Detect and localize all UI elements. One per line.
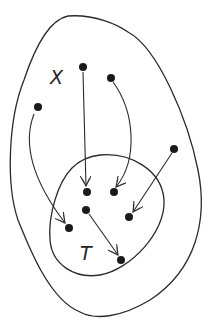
point-t6	[117, 256, 125, 264]
point-t2	[110, 188, 118, 196]
set-diagram: X T	[0, 0, 215, 327]
point-t3	[82, 206, 90, 214]
point-t5	[65, 224, 73, 232]
arrow-x2-to-t2	[113, 82, 131, 187]
point-x1	[79, 63, 87, 71]
arrow-x1-to-t1	[83, 72, 86, 186]
point-x3	[34, 103, 42, 111]
arrow-t3-to-t6	[89, 214, 118, 255]
label-t: T	[80, 242, 93, 264]
point-x4	[170, 145, 178, 153]
point-x2	[107, 74, 115, 82]
point-t1	[83, 188, 91, 196]
inner-set-boundary	[50, 155, 164, 276]
outer-set-boundary	[10, 16, 201, 317]
diagram-svg: X T	[0, 0, 215, 327]
point-t4	[125, 213, 133, 221]
label-x: X	[49, 66, 64, 88]
arrow-x4-to-t4	[133, 153, 172, 212]
arrow-x3-to-t5	[29, 114, 65, 223]
